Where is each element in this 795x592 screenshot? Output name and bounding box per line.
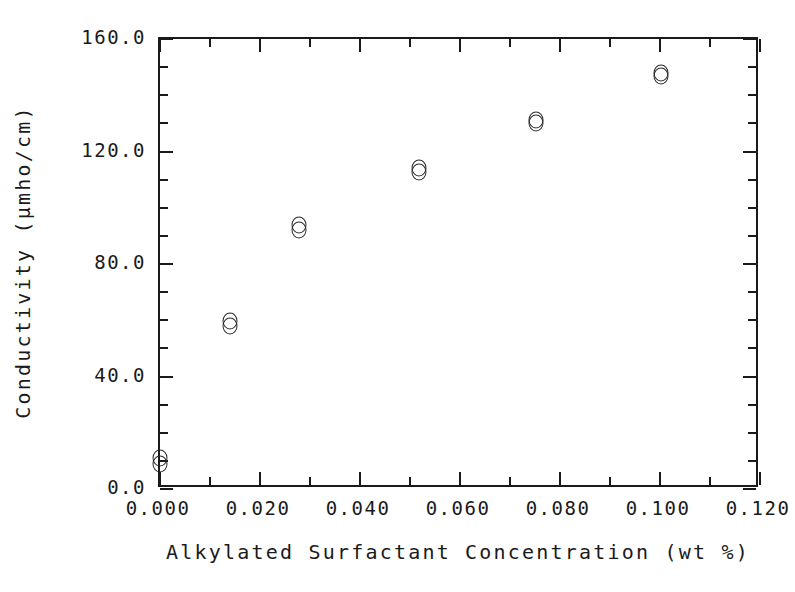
y-tick-major	[160, 38, 173, 40]
x-tick-minor-top	[309, 39, 311, 47]
y-tick-minor	[160, 94, 168, 96]
scatter-plot-figure: Conductivity (μmho/cm) 0.040.080.0120.01…	[0, 0, 795, 592]
x-tick-major-top	[359, 39, 361, 52]
data-point-marker	[412, 164, 427, 181]
x-tick-major	[659, 472, 661, 485]
y-tick-minor-right	[748, 94, 756, 96]
y-tick-minor-right	[748, 179, 756, 181]
y-tick-major-right	[743, 151, 756, 153]
x-tick-minor	[309, 477, 311, 485]
y-tick-minor	[160, 235, 168, 237]
x-tick-major-top	[559, 39, 561, 52]
y-tick-minor	[160, 207, 168, 209]
x-tick-major	[559, 472, 561, 485]
x-tick-label: 0.120	[726, 497, 791, 519]
x-tick-label: 0.000	[126, 497, 191, 519]
data-point-marker	[153, 455, 168, 472]
data-point-marker	[222, 317, 237, 334]
y-tick-minor-right	[748, 319, 756, 321]
y-tick-minor-right	[748, 66, 756, 68]
data-point-marker	[529, 115, 544, 132]
y-tick-label: 0.0	[107, 476, 146, 498]
y-tick-major-right	[743, 263, 756, 265]
x-tick-label: 0.080	[526, 497, 591, 519]
y-tick-major-right	[743, 38, 756, 40]
x-tick-minor-top	[409, 39, 411, 47]
x-tick-major-top	[759, 39, 761, 52]
x-tick-minor	[709, 477, 711, 485]
y-tick-major-right	[743, 488, 756, 490]
x-tick-minor	[409, 477, 411, 485]
y-tick-minor-right	[748, 122, 756, 124]
y-tick-label: 80.0	[94, 251, 146, 273]
x-tick-minor-top	[209, 39, 211, 47]
x-tick-major-top	[159, 39, 161, 52]
y-tick-label: 120.0	[81, 139, 146, 161]
plot-frame	[158, 37, 758, 487]
x-tick-minor-top	[609, 39, 611, 47]
y-tick-minor-right	[748, 207, 756, 209]
x-tick-major	[259, 472, 261, 485]
x-tick-label: 0.100	[626, 497, 691, 519]
x-tick-minor	[509, 477, 511, 485]
y-tick-minor	[160, 319, 168, 321]
x-tick-major-top	[459, 39, 461, 52]
y-tick-minor	[160, 66, 168, 68]
y-tick-minor	[160, 347, 168, 349]
y-tick-major-right	[743, 376, 756, 378]
y-tick-minor-right	[748, 235, 756, 237]
x-tick-label: 0.060	[426, 497, 491, 519]
x-tick-major-top	[659, 39, 661, 52]
x-tick-major	[159, 472, 161, 485]
x-axis-label: Alkylated Surfactant Concentration (wt %…	[158, 540, 758, 564]
x-tick-label: 0.040	[326, 497, 391, 519]
y-tick-minor	[160, 291, 168, 293]
y-tick-major	[160, 263, 173, 265]
y-tick-major	[160, 151, 173, 153]
x-tick-minor	[209, 477, 211, 485]
y-tick-label: 160.0	[81, 26, 146, 48]
y-tick-major	[160, 488, 173, 490]
y-tick-minor	[160, 179, 168, 181]
x-tick-major-top	[259, 39, 261, 52]
data-point-marker	[653, 67, 668, 84]
y-tick-label-group: 0.040.080.0120.0160.0	[0, 0, 146, 592]
y-tick-minor-right	[748, 291, 756, 293]
y-tick-minor-right	[748, 432, 756, 434]
x-tick-major	[359, 472, 361, 485]
y-tick-label: 40.0	[94, 364, 146, 386]
y-tick-minor-right	[748, 404, 756, 406]
y-tick-minor	[160, 122, 168, 124]
x-tick-minor-top	[709, 39, 711, 47]
x-tick-major	[759, 472, 761, 485]
x-tick-major	[459, 472, 461, 485]
y-tick-minor-right	[748, 460, 756, 462]
x-tick-label: 0.020	[226, 497, 291, 519]
x-tick-minor	[609, 477, 611, 485]
x-tick-minor-top	[509, 39, 511, 47]
y-tick-minor	[160, 404, 168, 406]
y-tick-major	[160, 376, 173, 378]
y-tick-minor	[160, 432, 168, 434]
y-tick-minor-right	[748, 347, 756, 349]
data-point-marker	[292, 221, 307, 238]
